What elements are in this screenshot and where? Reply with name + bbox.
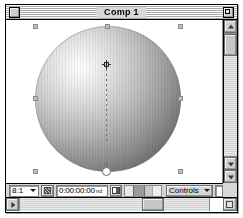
sphere-layer[interactable] <box>35 26 181 172</box>
horizontal-scrollbar[interactable] <box>6 197 237 212</box>
rotate-handle[interactable] <box>102 167 111 176</box>
triangle-down-icon <box>228 162 234 166</box>
selection-handle-middle-right[interactable] <box>178 96 183 101</box>
scroll-down-arrow-secondary-icon[interactable] <box>224 170 237 183</box>
zoom-ratio-select[interactable]: 8:1 <box>9 185 39 197</box>
scroll-down-arrow-icon[interactable] <box>224 157 237 170</box>
controls-select[interactable]: Controls <box>166 185 213 197</box>
exposure-segment-3 <box>145 186 152 196</box>
resize-grip-icon <box>226 201 233 208</box>
quality-button[interactable] <box>110 185 122 197</box>
triangle-down-icon-2 <box>228 175 234 179</box>
grow-box-icon[interactable] <box>223 198 237 211</box>
title-bar-inner: Comp 1 <box>6 5 237 19</box>
window-title-text: Comp 1 <box>97 7 146 18</box>
controls-label: Controls <box>169 186 199 195</box>
motion-path[interactable] <box>106 64 107 142</box>
exposure-segment-4 <box>152 186 161 196</box>
half-tone-icon <box>112 187 120 194</box>
selection-handle-top-left[interactable] <box>33 24 38 29</box>
composition-canvas[interactable] <box>6 20 222 183</box>
selection-handle-top-right[interactable] <box>178 24 183 29</box>
vertical-scrollbar[interactable] <box>223 20 237 183</box>
chevron-down-icon-2 <box>204 189 210 192</box>
anchor-point-icon[interactable] <box>102 60 111 69</box>
exposure-segment-1 <box>125 186 133 196</box>
horizontal-scroll-thumb[interactable] <box>142 198 164 211</box>
selection-handle-top-center[interactable] <box>105 24 110 29</box>
triangle-right-icon <box>11 202 15 208</box>
scroll-right-arrow-icon[interactable] <box>6 198 19 211</box>
exposure-thumb[interactable] <box>133 186 145 196</box>
selection-handle-middle-left[interactable] <box>33 96 38 101</box>
scroll-up-arrow-icon[interactable] <box>224 20 237 33</box>
toolbar-spare-field[interactable] <box>215 185 223 197</box>
exposure-slider[interactable] <box>124 185 162 197</box>
timecode-suffix: nd <box>96 188 102 194</box>
vertical-scroll-thumb[interactable] <box>224 34 237 56</box>
timecode-value: 0:00:00:00 <box>59 186 95 195</box>
vertical-scroll-track[interactable] <box>224 33 237 157</box>
anchor-point-box <box>104 62 109 67</box>
viewer-toolbar: 8:1 0:00:00:00 nd Controls <box>6 183 223 197</box>
triangle-up-icon <box>228 24 234 28</box>
horizontal-scroll-track[interactable] <box>19 198 210 211</box>
comp-window: Comp 1 <box>5 4 238 213</box>
sphere-edge <box>35 26 181 172</box>
chevron-down-icon <box>30 189 36 192</box>
window-title: Comp 1 <box>6 5 237 20</box>
selection-handle-bottom-left[interactable] <box>33 169 38 174</box>
timecode-field[interactable]: 0:00:00:00 nd <box>56 185 108 197</box>
title-bar[interactable]: Comp 1 <box>6 5 237 20</box>
resolution-button[interactable] <box>41 185 54 197</box>
zoom-ratio-value: 8:1 <box>12 186 23 195</box>
selection-handle-bottom-right[interactable] <box>178 169 183 174</box>
grid-icon <box>44 187 51 194</box>
composition-viewer[interactable] <box>6 20 223 183</box>
